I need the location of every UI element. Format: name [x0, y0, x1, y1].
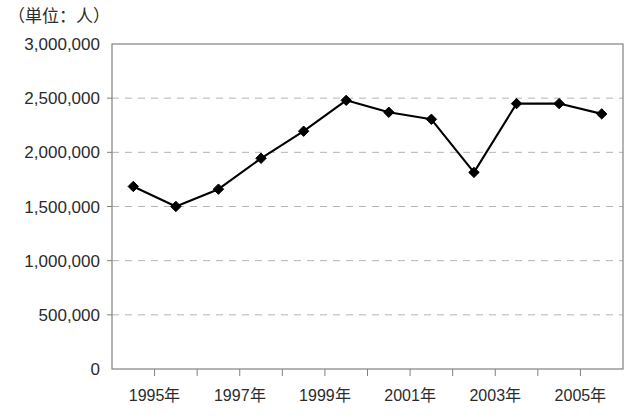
data-point-markers: [128, 95, 607, 212]
y-axis-tick-label: 2,500,000: [24, 89, 100, 108]
line-chart-plot: 0500,0001,000,0001,500,0002,000,0002,500…: [0, 0, 637, 419]
data-point-marker: [128, 181, 138, 191]
x-axis-tick-label: 1997年: [214, 387, 266, 404]
x-axis-tick-label: 2005年: [555, 387, 607, 404]
x-axis-tick-label: 1999年: [299, 387, 351, 404]
y-axis-tick-label: 1,000,000: [24, 252, 100, 271]
y-axis-tick-label: 500,000: [39, 306, 100, 325]
x-axis-tick-label: 2003年: [469, 387, 521, 404]
gridlines-group: [112, 98, 623, 315]
y-axis-tick-label: 3,000,000: [24, 35, 100, 54]
y-axis-tick-label: 2,000,000: [24, 143, 100, 162]
y-axis-tick-label: 1,500,000: [24, 198, 100, 217]
chart-container: （単位：人） 0500,0001,000,0001,500,0002,000,0…: [0, 0, 637, 419]
series-polyline: [133, 100, 601, 206]
x-axis-tick-label: 2001年: [384, 387, 436, 404]
x-axis-tick-label: 1995年: [129, 387, 181, 404]
data-point-marker: [554, 98, 564, 108]
y-axis-tick-labels: 0500,0001,000,0001,500,0002,000,0002,500…: [24, 35, 100, 379]
x-axis-tick-labels: 1995年1997年1999年2001年2003年2005年: [129, 387, 606, 404]
data-series-line: [133, 100, 601, 206]
y-axis-tick-label: 0: [91, 360, 100, 379]
data-point-marker: [384, 107, 394, 117]
y-axis-tick-marks: [107, 98, 112, 315]
data-point-marker: [171, 201, 181, 211]
x-axis-tick-marks: [155, 369, 581, 376]
data-point-marker: [597, 109, 607, 119]
data-point-marker: [511, 98, 521, 108]
